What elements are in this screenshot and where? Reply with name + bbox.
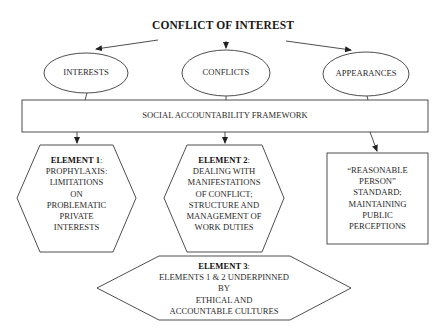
element-3-heading: ELEMENT 3 bbox=[198, 261, 247, 271]
arrow-title-to-interests bbox=[96, 40, 158, 49]
element-1-heading: ELEMENT 1 bbox=[51, 155, 100, 165]
element-1-text: ELEMENT 1: PROPHYLAXIS: LIMITATIONS ON P… bbox=[17, 155, 136, 233]
framework-label: SOCIAL ACCOUNTABILITY FRAMEWORK bbox=[22, 110, 428, 121]
reasonable-person-text: “REASONABLE PERSON” STANDARD; MAINTAININ… bbox=[327, 165, 428, 232]
ellipse-label-appearances: APPEARANCES bbox=[322, 68, 410, 79]
diagram-title: CONFLICT OF INTEREST bbox=[0, 19, 446, 31]
ellipse-label-interests: INTERESTS bbox=[44, 67, 128, 78]
element-2-text: ELEMENT 2: DEALING WITH MANIFESTATIONS O… bbox=[164, 155, 284, 233]
element-3-text: ELEMENT 3: ELEMENTS 1 & 2 UNDERPINNED BY… bbox=[97, 261, 351, 317]
ellipse-label-conflicts: CONFLICTS bbox=[182, 67, 270, 78]
element-2-heading: ELEMENT 2 bbox=[198, 155, 247, 165]
arrow-title-to-appearances bbox=[286, 41, 351, 50]
